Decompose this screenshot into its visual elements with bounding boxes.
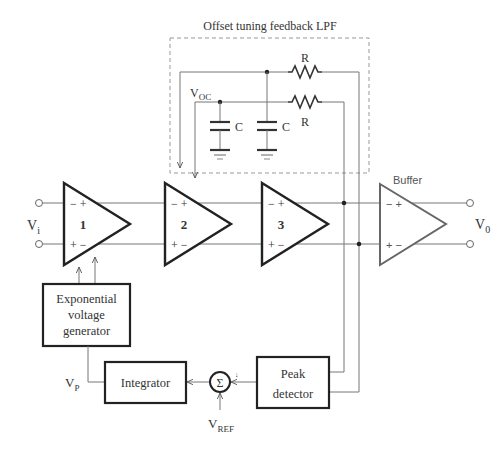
junction-dot [342, 201, 347, 206]
vi-label: Vi [27, 218, 40, 236]
vref-label: VREF [208, 416, 234, 434]
sigma-symbol: Σ [217, 376, 224, 390]
circuit-diagram: Offset tuning feedback LPF R R C [0, 0, 499, 460]
exp-gen-line2: voltage [68, 308, 105, 322]
peak-detector-block: Peak detector [257, 357, 329, 408]
amplifier-1: − + + − 1 [64, 183, 130, 265]
amp2-pins-bottom: + − [171, 238, 188, 252]
amp3-pins-bottom: + − [268, 238, 285, 252]
lpf-title: Offset tuning feedback LPF [203, 19, 337, 33]
outer-return-wire [322, 72, 359, 392]
voc-label: VOC [190, 86, 211, 102]
buffer-pins-top: − + [386, 198, 402, 210]
resistor-bottom-label: R [301, 115, 309, 129]
resistor-top-label: R [301, 51, 309, 65]
junction-dot [357, 242, 362, 247]
sum-sign: ↓ [235, 371, 239, 379]
amp3-pins-top: − + [268, 197, 285, 211]
cap-left-label: C [235, 120, 243, 134]
amp1-label: 1 [80, 217, 87, 232]
cap-right-label: C [282, 120, 290, 134]
buffer-amplifier: − + + − Buffer [380, 174, 446, 265]
exp-gen-line3: generator [63, 324, 111, 338]
capacitor-left [210, 102, 230, 159]
buffer-label: Buffer [393, 174, 422, 186]
amp3-label: 3 [278, 217, 285, 232]
exp-gen-line1: Exponential [56, 292, 117, 306]
inner-return-wire [322, 102, 344, 372]
lpf-boundary [170, 38, 369, 173]
integrator-block: Integrator [88, 346, 186, 403]
output-terminal[interactable] [467, 241, 474, 248]
amp1-pins-top: − + [70, 197, 87, 211]
output-terminal[interactable] [467, 200, 474, 207]
capacitor-right [257, 72, 277, 159]
amplifier-3: − + + − 3 [262, 183, 328, 265]
amplifier-2: − + + − 2 [165, 183, 231, 265]
exp-voltage-generator-block: Exponential voltage generator [43, 257, 130, 346]
amp2-label: 2 [181, 217, 188, 232]
amp2-pins-top: − + [171, 197, 188, 211]
vp-label: VP [65, 375, 79, 393]
peak-line1: Peak [281, 367, 306, 381]
summing-junction: Σ ↓ [187, 371, 257, 410]
integrator-label: Integrator [121, 376, 171, 390]
buffer-pins-bottom: + − [386, 239, 402, 251]
peak-line2: detector [273, 387, 314, 401]
input-terminal[interactable] [36, 200, 43, 207]
resistor-top [288, 66, 322, 78]
inner-feedback-wire [195, 102, 288, 178]
amp1-pins-bottom: + − [70, 238, 87, 252]
input-terminal[interactable] [36, 241, 43, 248]
vo-label: V0 [475, 217, 490, 235]
resistor-bottom [288, 96, 322, 108]
